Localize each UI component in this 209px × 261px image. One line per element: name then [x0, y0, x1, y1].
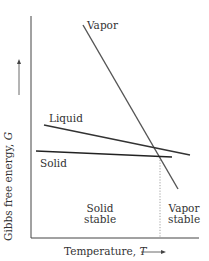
vapor-stable-label: Vapor stable	[168, 203, 200, 225]
liquid-series-label: Liquid	[49, 113, 83, 124]
y-axis-title-var: G	[2, 132, 14, 140]
liquid-line	[44, 125, 190, 155]
y-arrow-head-icon	[17, 59, 21, 64]
y-axis-title-text: Gibbs free energy,	[2, 140, 14, 241]
x-axis-title-var: T	[139, 245, 146, 257]
solid-series-label: Solid	[40, 158, 67, 169]
y-axis-title: Gibbs free energy, G	[2, 41, 14, 241]
solid-stable-label: Solid stable	[84, 203, 116, 225]
x-axis-title-text: Temperature,	[64, 245, 139, 257]
solid-stable-line2: stable	[84, 214, 116, 225]
x-axis-title: Temperature, T	[64, 245, 146, 257]
x-arrow-head-icon	[161, 250, 166, 254]
vapor-stable-line2: stable	[168, 214, 200, 225]
vapor-line	[83, 25, 178, 189]
vapor-series-label: Vapor	[87, 20, 118, 31]
